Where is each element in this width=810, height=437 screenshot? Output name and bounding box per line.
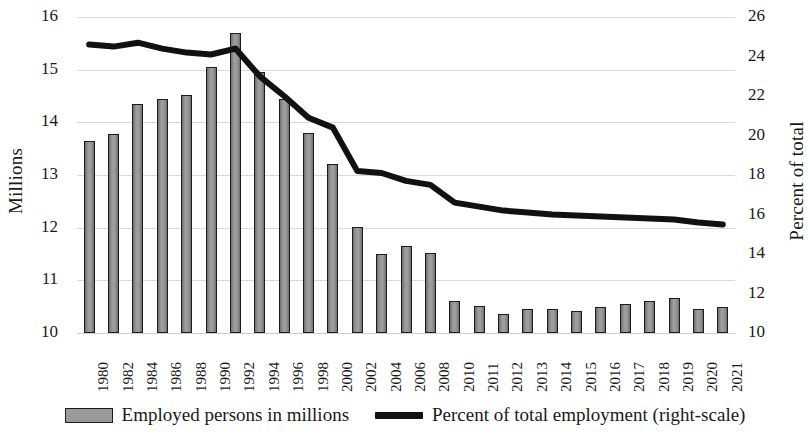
x-tick-label: 2021	[729, 362, 746, 392]
x-tick-label: 2006	[412, 362, 429, 392]
x-tick-label: 1994	[266, 362, 283, 392]
x-tick-label: 1984	[144, 362, 161, 392]
y-tick-label-right: 16	[748, 204, 788, 224]
bar-swatch-icon	[65, 408, 113, 423]
gridline	[77, 333, 735, 334]
y-tick-label-right: 20	[748, 125, 788, 145]
x-tick-label: 2012	[509, 362, 526, 392]
x-tick-label: 2002	[363, 362, 380, 392]
legend-item-line: Percent of total employment (right-scale…	[375, 404, 745, 426]
x-tick-label: 1992	[241, 362, 258, 392]
y-tick-label-right: 26	[748, 6, 788, 26]
plot-area	[77, 17, 735, 333]
y-tick-label-left: 11	[18, 269, 58, 289]
x-tick-label: 2010	[461, 362, 478, 392]
x-tick-label: 2019	[680, 362, 697, 392]
line-swatch-icon	[375, 412, 423, 419]
legend-label-line: Percent of total employment (right-scale…	[432, 404, 745, 426]
x-tick-label: 1988	[193, 362, 210, 392]
x-tick-label: 2015	[583, 362, 600, 392]
chart-container: Millions Percent of total 10111213141516…	[0, 0, 810, 437]
line-series	[77, 17, 735, 333]
x-tick-label: 1980	[95, 362, 112, 392]
legend-label-bars: Employed persons in millions	[122, 404, 349, 426]
x-tick-label: 2016	[607, 362, 624, 392]
x-tick-label: 1998	[315, 362, 332, 392]
y-tick-label-right: 18	[748, 164, 788, 184]
x-tick-label: 2020	[704, 362, 721, 392]
chart-legend: Employed persons in millions Percent of …	[0, 404, 810, 426]
y-tick-label-right: 10	[748, 322, 788, 342]
y-tick-label-left: 14	[18, 111, 58, 131]
percent-line	[89, 43, 723, 225]
x-tick-label: 2014	[558, 362, 575, 392]
y-tick-label-right: 24	[748, 46, 788, 66]
y-tick-label-right: 12	[748, 283, 788, 303]
x-tick-label: 2017	[631, 362, 648, 392]
x-tick-label: 2004	[388, 362, 405, 392]
right-axis-ticks: 101214161820222426	[748, 0, 798, 437]
x-tick-label: 1996	[290, 362, 307, 392]
y-tick-label-left: 10	[18, 322, 58, 342]
y-tick-label-left: 15	[18, 59, 58, 79]
x-tick-label: 2008	[436, 362, 453, 392]
x-tick-label: 1986	[168, 362, 185, 392]
legend-item-bars: Employed persons in millions	[65, 404, 349, 426]
x-tick-label: 2011	[485, 363, 502, 392]
y-tick-label-left: 12	[18, 217, 58, 237]
x-tick-label: 2000	[339, 362, 356, 392]
x-tick-label: 1982	[120, 362, 137, 392]
x-axis-labels: 1980198219841986198819901992199419961998…	[77, 336, 735, 398]
x-tick-label: 2013	[534, 362, 551, 392]
left-axis-ticks: 10111213141516	[8, 0, 58, 437]
y-tick-label-right: 14	[748, 243, 788, 263]
y-tick-label-left: 13	[18, 164, 58, 184]
y-tick-label-left: 16	[18, 6, 58, 26]
y-tick-label-right: 22	[748, 85, 788, 105]
x-tick-label: 2018	[656, 362, 673, 392]
x-tick-label: 1990	[217, 362, 234, 392]
